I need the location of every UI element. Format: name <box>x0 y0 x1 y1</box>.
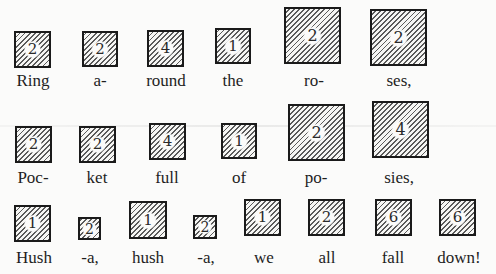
beat-box: 2 <box>284 7 341 64</box>
lyric-syllable: all <box>319 249 336 266</box>
beat-box: 4 <box>147 30 184 67</box>
beat-value: 4 <box>157 39 175 58</box>
beat-box: 1 <box>221 123 257 159</box>
lyric-syllable: ket <box>87 169 108 186</box>
lyric-syllable: round <box>146 72 186 89</box>
beat-value: 2 <box>89 135 107 154</box>
beat-value: 6 <box>385 208 403 227</box>
beat-box: 6 <box>375 199 412 236</box>
beat-value: 2 <box>303 26 321 46</box>
beat-value: 1 <box>224 37 242 56</box>
beat-value: 1 <box>139 211 157 230</box>
lyric-syllable: po- <box>305 169 328 186</box>
beat-box: 1 <box>215 28 251 64</box>
lyric-syllable: down! <box>437 249 480 266</box>
beat-value: 1 <box>230 132 248 151</box>
beat-value: 2 <box>25 135 43 154</box>
lyric-syllable: hush <box>132 249 164 266</box>
lyric-syllable: fall <box>382 249 405 266</box>
lyric-syllable: ro- <box>304 72 324 89</box>
beat-box: 2 <box>370 9 427 66</box>
beat-box: 4 <box>372 101 429 158</box>
beat-box: 2 <box>308 199 345 236</box>
beat-value: 2 <box>307 123 325 143</box>
lyric-syllable: full <box>155 169 179 186</box>
lyric-syllable: the <box>223 72 244 89</box>
beat-value: 2 <box>82 221 97 237</box>
beat-box: 2 <box>14 31 51 68</box>
lyric-syllable: -a, <box>81 249 98 266</box>
lyric-syllable: ses, <box>386 72 411 89</box>
beat-box: 1 <box>129 201 167 239</box>
beat-value: 2 <box>24 40 42 59</box>
lyric-syllable: of <box>232 169 246 186</box>
lyric-syllable: Poc- <box>17 169 48 186</box>
beat-value: 6 <box>449 208 467 227</box>
beat-value: 2 <box>91 40 109 59</box>
beat-value: 2 <box>318 208 336 227</box>
lyric-syllable: -a, <box>197 249 214 266</box>
lyric-syllable: a- <box>93 72 106 89</box>
lyric-syllable: Ring <box>16 72 49 89</box>
beat-box: 4 <box>149 123 186 160</box>
beat-box: 6 <box>439 199 476 236</box>
beat-box: 2 <box>15 126 52 163</box>
beat-box: 1 <box>244 199 281 236</box>
beat-box: 2 <box>78 217 101 240</box>
beat-value: 2 <box>198 219 213 235</box>
lyric-syllable: Hush <box>16 249 52 266</box>
beat-box: 2 <box>193 215 217 239</box>
beat-value: 1 <box>24 214 42 233</box>
beat-value: 4 <box>391 120 409 140</box>
beat-box: 2 <box>288 104 345 161</box>
beat-box: 1 <box>14 205 51 242</box>
beat-value: 4 <box>159 132 177 151</box>
beat-value: 2 <box>389 28 407 48</box>
lyric-syllable: we <box>254 249 274 266</box>
lyric-syllable: sies, <box>384 169 414 186</box>
beat-box: 2 <box>79 126 116 163</box>
beat-box: 2 <box>82 31 118 67</box>
beat-value: 1 <box>254 208 272 227</box>
